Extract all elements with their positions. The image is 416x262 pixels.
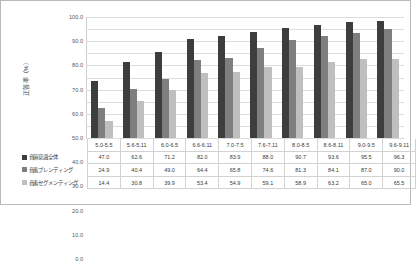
bar: [289, 40, 296, 138]
data-table: 5.0-5.55.6-5.116.0-6.56.6-6.117.0-7.57.6…: [21, 139, 416, 189]
bar: [137, 101, 144, 138]
bar: [328, 62, 335, 138]
plot-area: 100.090.080.070.060.050.040.030.020.010.…: [86, 17, 404, 139]
table-cell-value: 82.0: [186, 151, 219, 164]
bar: [194, 60, 201, 138]
bar: [321, 36, 328, 138]
bar: [282, 28, 289, 138]
bar: [353, 33, 360, 138]
table-cell-value: 14.4: [88, 176, 121, 189]
bar: [155, 52, 162, 138]
legend-swatch-icon: [22, 155, 27, 160]
bar-group: [150, 17, 182, 138]
bar-group: [245, 17, 277, 138]
table-cell-value: 90.0: [383, 164, 416, 177]
table-cell-value: 62.6: [120, 151, 153, 164]
bar: [257, 48, 264, 138]
table-row: 音素セグメンティング 14.430.839.953.454.959.158.96…: [21, 176, 415, 189]
category-row-head: [21, 139, 88, 151]
x-axis-category-label: 8.6-8.11: [317, 139, 350, 151]
y-axis-title: 正答率（%）: [21, 43, 30, 113]
legend-label: 音素ブレンディング: [29, 167, 73, 173]
x-axis-category-label: 8.0-8.5: [284, 139, 317, 151]
bar: [250, 32, 257, 138]
table-cell-value: 87.0: [350, 164, 383, 177]
table-cell-value: 49.0: [153, 164, 186, 177]
x-axis-category-label: 6.6-6.11: [186, 139, 219, 151]
bar: [233, 72, 240, 138]
bar: [392, 59, 399, 138]
bar: [105, 121, 112, 138]
table-cell-value: 64.4: [186, 164, 219, 177]
table-cell-value: 74.6: [251, 164, 284, 177]
legend-label: 音韻意識全体: [29, 154, 58, 160]
table-cell-value: 40.4: [120, 164, 153, 177]
table-cell-value: 39.9: [153, 176, 186, 189]
x-axis-category-label: 5.0-5.5: [88, 139, 121, 151]
y-axis-tick-label: 20.0: [72, 208, 83, 214]
x-axis-category-label: 9.0-9.5: [350, 139, 383, 151]
table-cell-value: 93.6: [317, 151, 350, 164]
y-axis-tick-label: 60.0: [72, 111, 83, 117]
bar: [314, 25, 321, 138]
table-cell-value: 96.3: [383, 151, 416, 164]
bar: [296, 67, 303, 138]
y-axis-tick-label: 0.0: [75, 256, 83, 262]
bar-group: [309, 17, 341, 138]
x-axis-category-label: 5.6-5.11: [120, 139, 153, 151]
legend-item-series-1: 音素ブレンディング: [21, 164, 88, 177]
bar: [123, 62, 130, 138]
bar: [264, 67, 271, 139]
bar: [225, 58, 232, 138]
bar: [346, 22, 353, 138]
bar: [360, 59, 367, 138]
bar: [377, 21, 384, 138]
y-axis-tick-label: 90.0: [72, 38, 83, 44]
y-axis-tick-label: 70.0: [72, 87, 83, 93]
legend-item-series-0: 音韻意識全体: [21, 151, 88, 164]
table-row-categories: 5.0-5.55.6-5.116.0-6.56.6-6.117.0-7.57.6…: [21, 139, 415, 151]
bar: [187, 39, 194, 138]
table-cell-value: 71.2: [153, 151, 186, 164]
bar-group: [213, 17, 245, 138]
table-cell-value: 83.9: [219, 151, 252, 164]
x-axis-category-label: 7.0-7.5: [219, 139, 252, 151]
y-axis-tick-label: 100.0: [69, 14, 83, 20]
table-cell-value: 65.5: [383, 176, 416, 189]
bar: [130, 89, 137, 138]
bar-group: [277, 17, 309, 138]
table-cell-value: 65.0: [350, 176, 383, 189]
table-cell-value: 84.1: [317, 164, 350, 177]
legend-swatch-icon: [22, 167, 27, 172]
legend-label: 音素セグメンティング: [29, 180, 78, 186]
table-cell-value: 30.8: [120, 176, 153, 189]
bar: [384, 29, 391, 138]
bar: [169, 90, 176, 138]
y-axis-tick-label: 10.0: [72, 232, 83, 238]
bar: [91, 81, 98, 138]
bar: [201, 73, 208, 138]
table-row: 音韻意識全体 47.062.671.282.083.988.090.793.69…: [21, 151, 415, 164]
x-axis-category-label: 9.6-9.11: [383, 139, 416, 151]
table-cell-value: 47.0: [88, 151, 121, 164]
legend-swatch-icon: [22, 180, 27, 185]
table-cell-value: 58.9: [284, 176, 317, 189]
y-axis-tick-label: 80.0: [72, 62, 83, 68]
table-cell-value: 53.4: [186, 176, 219, 189]
bar-group: [118, 17, 150, 138]
bar: [162, 79, 169, 138]
table-cell-value: 65.8: [219, 164, 252, 177]
table-cell-value: 81.3: [284, 164, 317, 177]
chart-container: 正答率（%） 100.090.080.070.060.050.040.030.0…: [0, 0, 411, 205]
table-row: 音素ブレンディング 24.940.449.064.465.874.681.384…: [21, 164, 415, 177]
bar: [98, 108, 105, 138]
bar-group: [181, 17, 213, 138]
table-cell-value: 90.7: [284, 151, 317, 164]
table-cell-value: 88.0: [251, 151, 284, 164]
table-cell-value: 63.2: [317, 176, 350, 189]
table-cell-value: 59.1: [251, 176, 284, 189]
bar-group: [86, 17, 118, 138]
table-cell-value: 24.9: [88, 164, 121, 177]
bar-group: [372, 17, 404, 138]
bar: [218, 36, 225, 138]
